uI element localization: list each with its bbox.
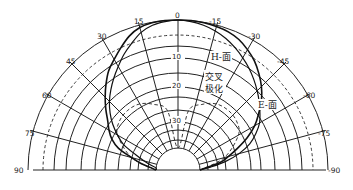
angle-label-90: 90 <box>14 166 24 175</box>
angle-label-minus-75: -75 <box>318 129 330 138</box>
grid-spoke <box>30 130 157 164</box>
angle-label-minus-30: -30 <box>248 32 260 41</box>
angle-label-minus-15: -15 <box>209 17 221 26</box>
angle-label-30: 30 <box>97 32 107 41</box>
angle-label-minus-45: -45 <box>277 57 289 66</box>
angle-label-0: 0 <box>175 11 180 20</box>
h-plane-label: H-面 <box>211 52 231 62</box>
polar-radiation-pattern-chart: 90 75 60 45 30 15 0 -15 -30 -45 -60 -75 … <box>0 0 353 190</box>
ring-label-30: 30 <box>172 117 181 125</box>
grid-ring <box>156 148 200 170</box>
angle-label-15: 15 <box>134 17 144 26</box>
cross-polarization-label-line2: 极化 <box>205 83 223 94</box>
angular-grid-spokes <box>30 20 326 164</box>
angle-label-60: 60 <box>42 91 52 100</box>
grid-spoke <box>199 130 326 164</box>
grid-spoke <box>138 22 172 149</box>
series-curves <box>105 20 262 170</box>
cross-polarization-label-line1: 交叉 <box>205 71 223 82</box>
h-plane-curve <box>105 20 262 170</box>
ring-label-10: 10 <box>172 53 181 61</box>
angle-label-minus-60: -60 <box>303 91 315 100</box>
angle-label-45: 45 <box>66 57 76 66</box>
grid-spoke <box>70 62 163 155</box>
angle-label-minus-90: -90 <box>328 166 340 175</box>
e-plane-label: E-面 <box>258 100 277 110</box>
angle-label-75: 75 <box>25 129 35 138</box>
ring-label-20: 20 <box>172 82 181 90</box>
